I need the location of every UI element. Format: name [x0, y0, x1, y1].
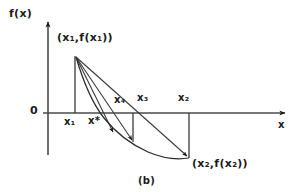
origin-label: 0 [30, 105, 38, 116]
tick-label-x4: x₄ [114, 95, 125, 105]
upper-point-label: (x₁,f(x₁)) [57, 32, 113, 43]
figure-caption: (b) [138, 176, 155, 186]
figure-canvas [0, 0, 301, 192]
tick-label-x3: x₃ [137, 93, 148, 103]
secant-method-figure: f(x) 0 (x₁,f(x₁)) x₁ x* x₄ x₃ x₂ (x₂,f(x… [0, 0, 301, 192]
secant-chord-x1-x2 [76, 57, 187, 156]
y-axis-label: f(x) [9, 8, 32, 19]
lower-point-label: (x₂,f(x₂)) [192, 158, 248, 169]
tick-label-x1: x₁ [64, 117, 75, 127]
x-axis-label: x [278, 120, 285, 130]
tick-label-x2: x₂ [178, 93, 189, 103]
tick-label-x-star: x* [88, 116, 100, 126]
